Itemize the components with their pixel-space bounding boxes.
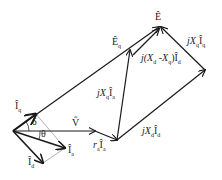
label-jxd-id: jXdÎd: [140, 125, 160, 138]
label-delta: δ: [32, 116, 37, 127]
label-iq: Îq: [15, 100, 21, 113]
label-ra-ia: raÎa: [93, 139, 106, 152]
label-v: V̂: [72, 116, 80, 128]
phasor-diagram: Ê Êq Îq δ θ V̂ Îa Îd raÎa jXqÎa j(Xd -Xq…: [0, 0, 222, 180]
jxd-id-vector: [117, 70, 205, 140]
label-jxq-iq: jXqÎq: [185, 35, 205, 48]
theta-arc: [39, 131, 40, 140]
label-theta: θ: [41, 128, 46, 139]
label-e: Ê: [155, 11, 161, 22]
jxq-ia-vector: [117, 50, 130, 140]
label-ia: Îa: [68, 144, 74, 157]
ra-ia-vector: [95, 131, 117, 140]
label-jxdxq-id: j(Xd -Xq)Îd: [139, 52, 181, 65]
delta-arc: [26, 122, 29, 132]
label-jxq-ia: jXqÎa: [95, 87, 115, 100]
label-eq: Êq: [112, 36, 121, 49]
label-id: Îd: [28, 156, 34, 169]
